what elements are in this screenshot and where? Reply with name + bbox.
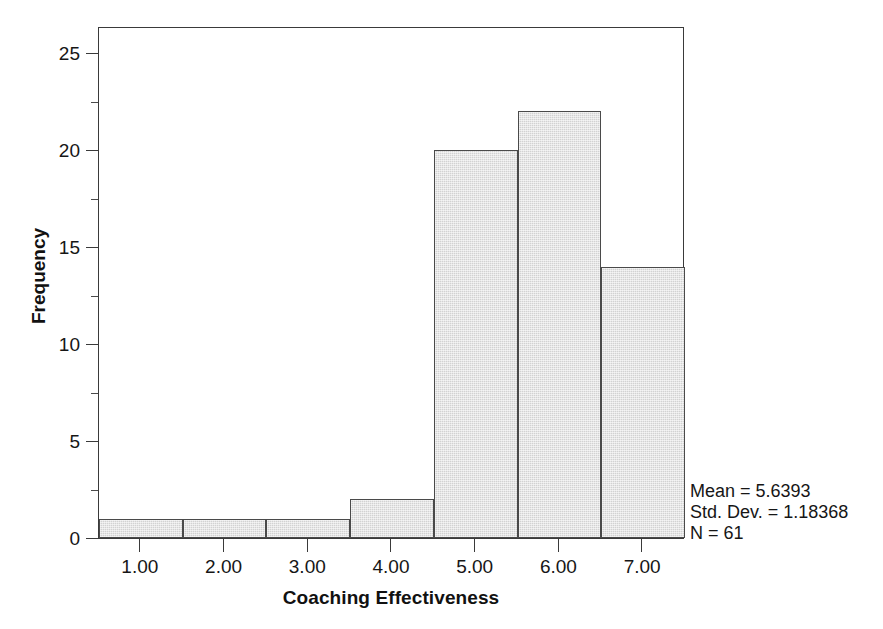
y-axis-minor-tick (91, 490, 98, 491)
y-axis-title: Frequency (28, 206, 50, 346)
histogram-bar (183, 519, 267, 538)
x-axis-tick (474, 539, 475, 552)
histogram-bar (266, 519, 350, 538)
x-axis-tick-label: 5.00 (430, 556, 520, 578)
x-axis-tick (558, 539, 559, 552)
stat-std-dev: Std. Dev. = 1.18368 (690, 502, 848, 523)
x-axis-title: Coaching Effectiveness (98, 587, 684, 609)
y-axis-tick-label: 10 (0, 335, 80, 354)
x-axis-tick-label: 6.00 (513, 556, 603, 578)
y-axis-tick-label: 5 (0, 432, 80, 451)
y-axis-tick (86, 247, 98, 248)
histogram-bar (518, 111, 602, 538)
x-axis-tick-label: 7.00 (597, 556, 687, 578)
y-axis-tick (86, 538, 98, 539)
y-axis-minor-tick (91, 296, 98, 297)
y-axis-tick-label: 25 (0, 44, 80, 63)
histogram-bar (350, 499, 434, 538)
plot-area (98, 27, 684, 539)
x-axis-tick-label: 1.00 (95, 556, 185, 578)
x-axis-tick (307, 539, 308, 552)
y-axis-tick (86, 53, 98, 54)
x-axis-tick-label: 4.00 (346, 556, 436, 578)
x-axis-tick (223, 539, 224, 552)
y-axis-tick-label: 20 (0, 141, 80, 160)
x-axis-tick (390, 539, 391, 552)
x-axis-tick (641, 539, 642, 552)
y-axis-minor-tick (91, 199, 98, 200)
histogram-bar (601, 267, 685, 539)
y-axis-tick-label: 15 (0, 238, 80, 257)
y-axis-tick (86, 150, 98, 151)
histogram-bar (99, 519, 183, 538)
y-axis-minor-tick (91, 102, 98, 103)
statistics-annotation: Mean = 5.6393 Std. Dev. = 1.18368 N = 61 (690, 481, 848, 544)
histogram-figure: Frequency 0510152025 1.002.003.004.005.0… (0, 0, 883, 629)
stat-mean: Mean = 5.6393 (690, 481, 848, 502)
stat-n: N = 61 (690, 523, 848, 544)
y-axis-tick-label: 0 (0, 529, 80, 548)
y-axis-minor-tick (91, 393, 98, 394)
histogram-bar (434, 150, 518, 538)
bar-series (99, 28, 683, 538)
y-axis-tick (86, 344, 98, 345)
x-axis-tick-label: 2.00 (179, 556, 269, 578)
x-axis-tick (139, 539, 140, 552)
x-axis-tick-label: 3.00 (262, 556, 352, 578)
y-axis-tick (86, 441, 98, 442)
